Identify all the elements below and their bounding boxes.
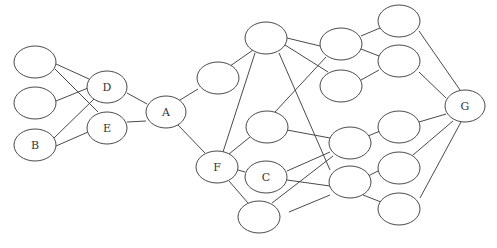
node-d: D — [87, 71, 127, 103]
node-label: D — [103, 81, 112, 94]
network-diagram: BDEAFCG — [0, 0, 497, 248]
edge-line — [279, 53, 330, 170]
edge-line — [419, 31, 460, 90]
node-label: F — [213, 161, 221, 174]
node-ellipse — [197, 62, 239, 94]
node-s2 — [378, 45, 420, 77]
node-s3 — [378, 111, 420, 143]
node-ellipse — [320, 70, 362, 102]
node-ellipse — [320, 28, 362, 60]
node-r1 — [320, 28, 362, 60]
edge-line — [419, 114, 446, 122]
node-r4 — [329, 166, 371, 198]
edge-line — [287, 152, 330, 171]
edge-line — [180, 89, 198, 100]
node-ellipse — [238, 201, 280, 233]
edge-line — [127, 93, 147, 104]
edge-line — [56, 88, 88, 101]
node-ellipse — [378, 193, 420, 225]
edge-line — [238, 170, 245, 172]
node-label: G — [461, 100, 470, 113]
edge-line — [420, 122, 461, 198]
node-label: C — [262, 171, 270, 184]
node-label: B — [31, 139, 39, 152]
edge-line — [56, 64, 89, 79]
edge-line — [368, 131, 380, 136]
node-ellipse — [245, 22, 287, 54]
node-a: A — [146, 96, 186, 128]
node-n1 — [197, 62, 239, 94]
edge-line — [229, 181, 248, 203]
nodes-layer: BDEAFCG — [14, 5, 485, 233]
node-t — [245, 22, 287, 54]
node-g: G — [445, 90, 485, 122]
edge-line — [419, 72, 446, 98]
edge-line — [361, 49, 379, 56]
edge-line — [287, 130, 330, 138]
node-ellipse — [378, 152, 420, 184]
node-ellipse — [329, 127, 371, 159]
edge-line — [361, 28, 380, 36]
node-m1 — [246, 111, 288, 143]
edge-line — [275, 57, 326, 112]
node-label: E — [103, 122, 111, 135]
node-label: A — [161, 106, 171, 119]
node-l1 — [14, 46, 56, 78]
node-ellipse — [378, 45, 420, 77]
edge-line — [127, 121, 146, 122]
edge-line — [289, 195, 330, 212]
edge-line — [361, 70, 379, 80]
node-ellipse — [329, 166, 371, 198]
node-f: F — [196, 151, 238, 183]
node-ellipse — [14, 46, 56, 78]
node-e: E — [87, 112, 127, 144]
node-s4 — [378, 152, 420, 184]
node-l2 — [14, 87, 56, 119]
edge-line — [178, 125, 205, 153]
node-bt — [238, 201, 280, 233]
node-ellipse — [14, 87, 56, 119]
node-r3 — [329, 127, 371, 159]
node-b: B — [14, 129, 56, 161]
node-c: C — [245, 161, 287, 193]
node-ellipse — [378, 111, 420, 143]
node-ellipse — [378, 5, 420, 37]
node-r2 — [320, 70, 362, 102]
edge-line — [229, 137, 250, 154]
edge-line — [287, 38, 320, 46]
node-s1 — [378, 5, 420, 37]
edge-line — [363, 195, 381, 202]
node-ellipse — [246, 111, 288, 143]
edge-line — [287, 180, 330, 186]
node-s5 — [378, 193, 420, 225]
edge-line — [56, 132, 88, 146]
